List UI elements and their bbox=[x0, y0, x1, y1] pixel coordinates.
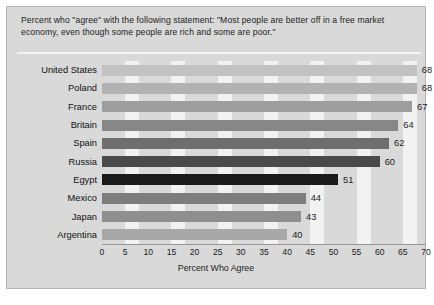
bar-rows: 68686764626051444340 bbox=[102, 61, 426, 244]
x-tick-label: 15 bbox=[167, 247, 177, 257]
x-tick-label: 50 bbox=[329, 247, 339, 257]
bar-value-label: 64 bbox=[403, 120, 413, 130]
x-axis-line bbox=[102, 244, 426, 245]
category-label: Mexico bbox=[68, 193, 97, 203]
bar bbox=[102, 193, 306, 204]
x-tick-label: 40 bbox=[282, 247, 292, 257]
bar bbox=[102, 65, 417, 76]
category-label: Poland bbox=[68, 83, 97, 93]
category-label: France bbox=[68, 102, 97, 112]
x-tick-label: 5 bbox=[123, 247, 128, 257]
bar-value-label: 68 bbox=[422, 83, 432, 93]
category-label: Argentina bbox=[57, 230, 97, 240]
bar bbox=[102, 138, 389, 149]
bar bbox=[102, 120, 398, 131]
bar-value-label: 51 bbox=[343, 175, 353, 185]
x-tick-label: 60 bbox=[375, 247, 385, 257]
bar-value-label: 60 bbox=[385, 157, 395, 167]
bar-row: 68 bbox=[102, 83, 426, 94]
x-axis-ticks: 0510152025303540455055606570 bbox=[102, 247, 426, 259]
bar-value-label: 40 bbox=[292, 230, 302, 240]
title-divider bbox=[17, 52, 421, 54]
chart-card: Percent who "agree" with the following s… bbox=[6, 6, 426, 289]
category-label: Russia bbox=[69, 157, 97, 167]
x-tick-label: 0 bbox=[100, 247, 105, 257]
plot-area: 68686764626051444340 bbox=[102, 61, 426, 244]
bar-row: 60 bbox=[102, 156, 426, 167]
bar-value-label: 68 bbox=[422, 65, 432, 75]
bar-row: 51 bbox=[102, 174, 426, 185]
x-tick-label: 30 bbox=[236, 247, 246, 257]
category-label: Britain bbox=[71, 120, 97, 130]
bar-row: 62 bbox=[102, 138, 426, 149]
bar-row: 67 bbox=[102, 101, 426, 112]
bar-value-label: 62 bbox=[394, 138, 404, 148]
chart-title: Percent who "agree" with the following s… bbox=[21, 15, 417, 38]
bar bbox=[102, 83, 417, 94]
x-tick-label: 65 bbox=[398, 247, 408, 257]
bar bbox=[102, 156, 380, 167]
category-label: United States bbox=[41, 65, 97, 75]
x-tick-label: 35 bbox=[259, 247, 269, 257]
x-tick-label: 10 bbox=[144, 247, 154, 257]
x-tick-label: 70 bbox=[421, 247, 431, 257]
bar-row: 40 bbox=[102, 229, 426, 240]
bar bbox=[102, 229, 287, 240]
category-label: Spain bbox=[73, 138, 97, 148]
x-tick-label: 25 bbox=[213, 247, 223, 257]
bar-row: 44 bbox=[102, 193, 426, 204]
bar bbox=[102, 174, 338, 185]
bar bbox=[102, 211, 301, 222]
category-label: Japan bbox=[72, 212, 97, 222]
x-tick-label: 55 bbox=[352, 247, 362, 257]
category-axis-labels: United StatesPolandFranceBritainSpainRus… bbox=[7, 61, 97, 244]
x-tick-label: 20 bbox=[190, 247, 200, 257]
x-axis-title: Percent Who Agree bbox=[7, 263, 425, 273]
bar-row: 68 bbox=[102, 65, 426, 76]
bar-value-label: 44 bbox=[311, 193, 321, 203]
bar-value-label: 43 bbox=[306, 212, 316, 222]
category-label: Egypt bbox=[73, 175, 97, 185]
bar-row: 43 bbox=[102, 211, 426, 222]
bar-value-label: 67 bbox=[417, 102, 427, 112]
x-tick-label: 45 bbox=[306, 247, 316, 257]
bar bbox=[102, 101, 412, 112]
bar-row: 64 bbox=[102, 120, 426, 131]
